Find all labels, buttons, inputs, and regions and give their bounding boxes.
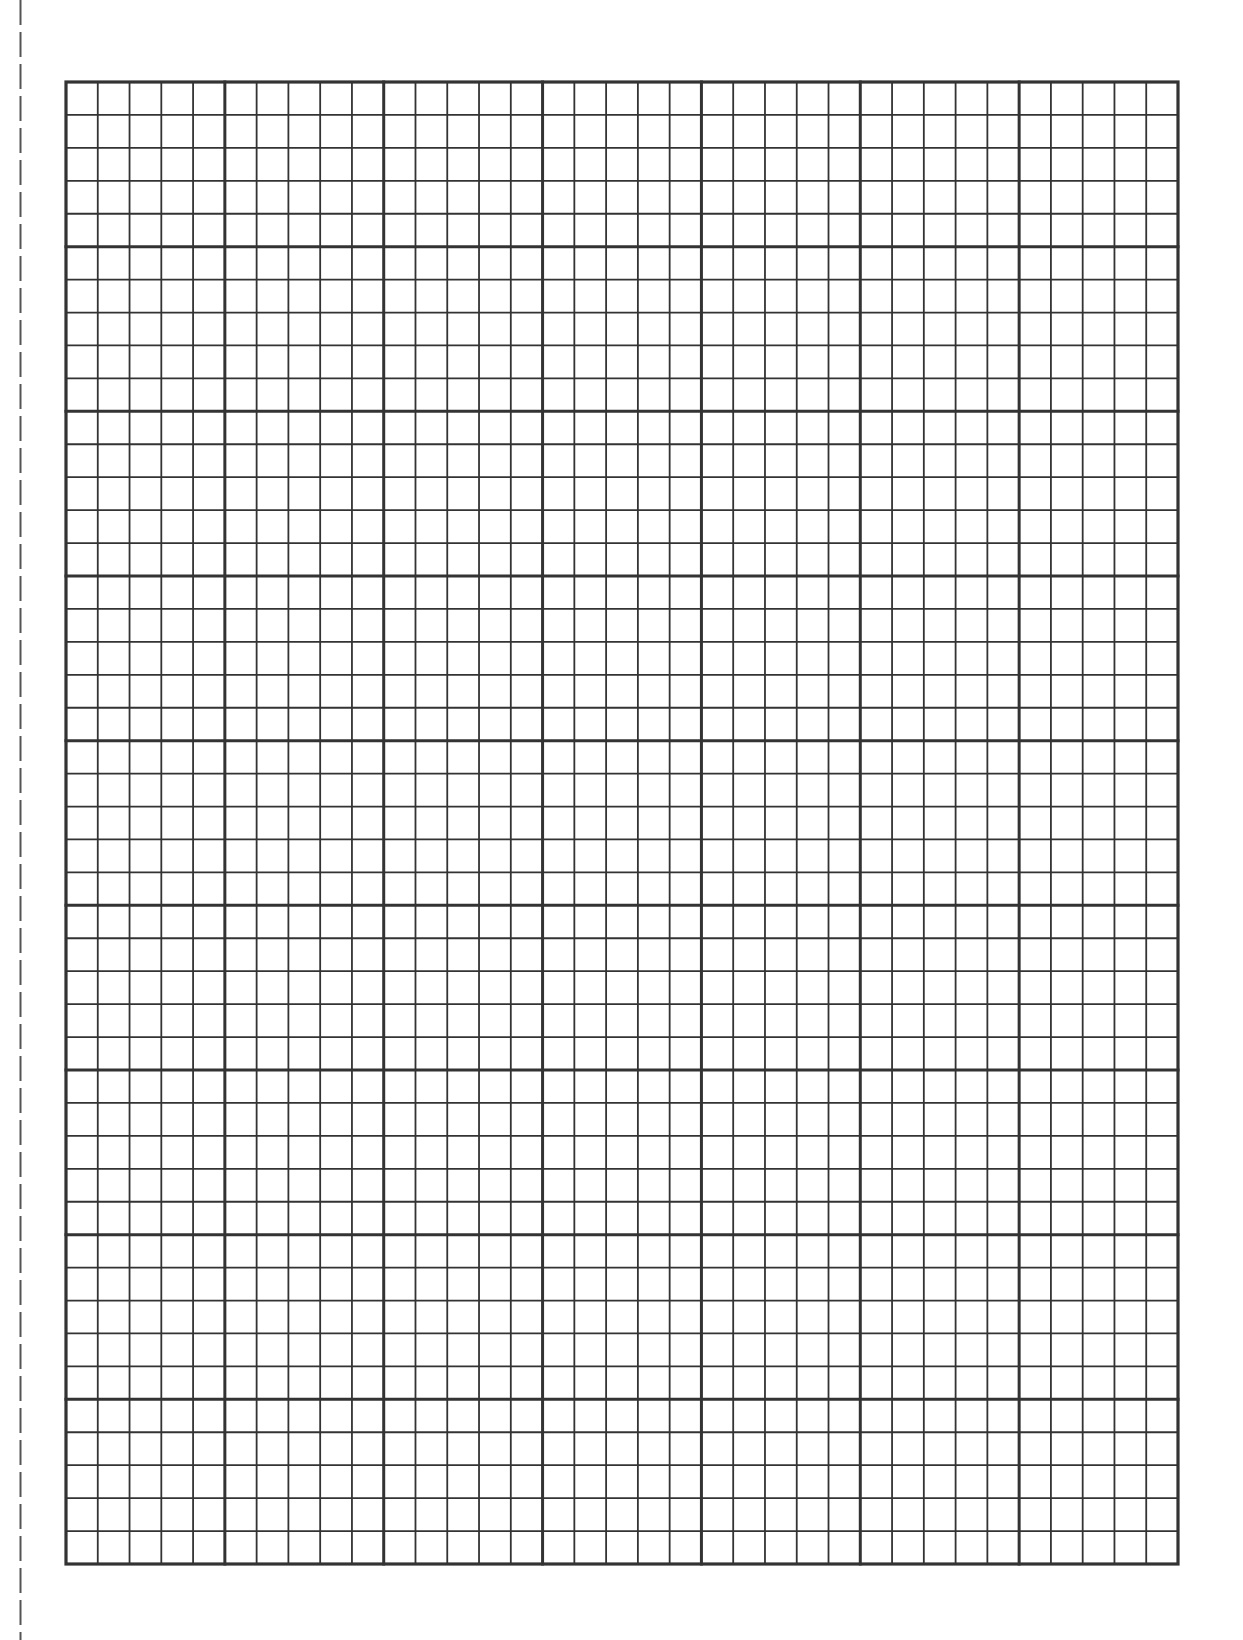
graph-grid bbox=[0, 0, 1243, 1640]
grid-border bbox=[66, 82, 1178, 1564]
graph-paper-page bbox=[0, 0, 1243, 1640]
